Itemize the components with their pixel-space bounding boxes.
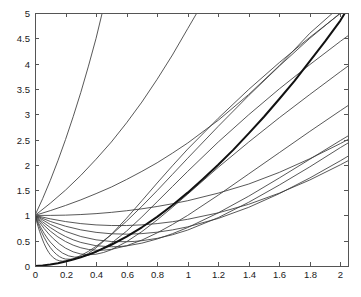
x-tick-label-4: 0.8 bbox=[151, 269, 164, 280]
x-tick-label-8: 1.6 bbox=[273, 269, 286, 280]
y-tick-label-2: 1 bbox=[25, 210, 30, 221]
x-tick-label-7: 1.4 bbox=[243, 269, 256, 280]
y-tick-label-10: 5 bbox=[25, 8, 30, 19]
y-tick-label-6: 3 bbox=[25, 109, 30, 120]
y-tick-label-4: 2 bbox=[25, 160, 30, 171]
y-tick-label-1: 0.5 bbox=[17, 236, 30, 247]
x-tick-label-10: 2 bbox=[338, 269, 343, 280]
y-tick-label-7: 3.5 bbox=[17, 84, 30, 95]
chart-canvas: 00.20.40.60.811.21.41.61.8200.511.522.53… bbox=[0, 0, 361, 297]
x-tick-label-9: 1.8 bbox=[304, 269, 317, 280]
x-tick-label-0: 0 bbox=[33, 269, 38, 280]
x-tick-label-2: 0.4 bbox=[90, 269, 103, 280]
y-tick-label-0: 0 bbox=[25, 261, 30, 272]
x-tick-label-1: 0.2 bbox=[60, 269, 73, 280]
figure-container: 00.20.40.60.811.21.41.61.8200.511.522.53… bbox=[0, 0, 361, 297]
y-tick-label-9: 4.5 bbox=[17, 33, 30, 44]
x-tick-label-3: 0.6 bbox=[121, 269, 134, 280]
x-tick-label-6: 1.2 bbox=[212, 269, 225, 280]
y-tick-label-8: 4 bbox=[25, 59, 30, 70]
y-tick-label-3: 1.5 bbox=[17, 185, 30, 196]
x-tick-label-5: 1 bbox=[186, 269, 191, 280]
y-tick-label-5: 2.5 bbox=[17, 135, 30, 146]
